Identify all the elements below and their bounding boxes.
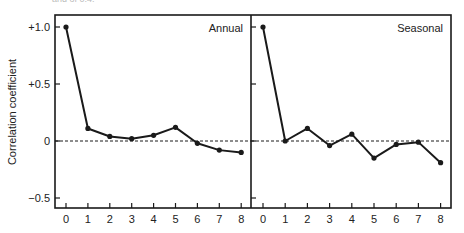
data-point xyxy=(239,150,244,155)
panel-title: Annual xyxy=(209,22,243,34)
x-tick-label: 6 xyxy=(194,213,200,225)
plot-border xyxy=(55,15,451,208)
correlation-chart: Correlation coefficient +1.0+0.50−0.5012… xyxy=(0,0,464,233)
data-point xyxy=(129,136,134,141)
data-point xyxy=(107,134,112,139)
x-tick-label: 3 xyxy=(129,213,135,225)
x-tick-label: 4 xyxy=(151,213,157,225)
data-point xyxy=(260,24,265,29)
x-tick-label: 8 xyxy=(238,213,244,225)
x-tick-label: 0 xyxy=(260,213,266,225)
y-tick-label: +1.0 xyxy=(28,21,50,33)
x-tick-label: 2 xyxy=(107,213,113,225)
data-point xyxy=(195,141,200,146)
x-tick-label: 7 xyxy=(216,213,222,225)
x-tick-label: 4 xyxy=(349,213,355,225)
y-tick-label: 0 xyxy=(44,135,50,147)
x-tick-label: 7 xyxy=(415,213,421,225)
x-tick-label: 1 xyxy=(85,213,91,225)
y-axis-title: Correlation coefficient xyxy=(6,59,18,165)
data-point xyxy=(173,125,178,130)
x-tick-label: 5 xyxy=(172,213,178,225)
x-tick-label: 2 xyxy=(304,213,310,225)
y-tick-label: −0.5 xyxy=(28,192,50,204)
data-point xyxy=(349,132,354,137)
data-point xyxy=(305,126,310,131)
data-point xyxy=(438,160,443,165)
x-tick-label: 5 xyxy=(371,213,377,225)
data-point xyxy=(63,24,68,29)
x-tick-label: 1 xyxy=(282,213,288,225)
chart-frame xyxy=(55,15,451,208)
data-point xyxy=(283,138,288,143)
data-point xyxy=(85,126,90,131)
data-point xyxy=(327,143,332,148)
y-tick-label: +0.5 xyxy=(28,78,50,90)
x-tick-label: 3 xyxy=(327,213,333,225)
panel-seasonal: 012345678Seasonal xyxy=(251,22,451,225)
data-point xyxy=(217,148,222,153)
x-tick-label: 0 xyxy=(63,213,69,225)
data-point xyxy=(151,133,156,138)
y-axis-label: Correlation coefficient xyxy=(6,59,18,165)
data-point xyxy=(416,140,421,145)
x-tick-label: 6 xyxy=(393,213,399,225)
panel-annual: +1.0+0.50−0.5012345678Annual xyxy=(28,21,251,225)
panel-title: Seasonal xyxy=(397,22,443,34)
data-point xyxy=(371,156,376,161)
data-point xyxy=(394,142,399,147)
series-line xyxy=(263,27,441,163)
x-tick-label: 8 xyxy=(438,213,444,225)
